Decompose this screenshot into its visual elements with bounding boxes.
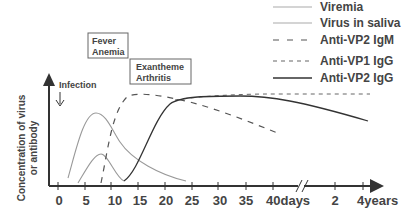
legend-label-vp2-igm: Anti-VP2 IgM xyxy=(320,33,394,47)
chart-canvas: Viremia Virus in saliva Anti-VP2 IgM Ant… xyxy=(0,0,417,223)
legend-label-vp2-igg: Anti-VP2 IgG xyxy=(320,71,393,85)
axes xyxy=(43,73,384,193)
y-axis-arrow-icon xyxy=(43,73,55,86)
svg-text:Infection: Infection xyxy=(59,80,97,90)
svg-text:30: 30 xyxy=(213,193,227,208)
legend-label-saliva: Virus in saliva xyxy=(320,16,401,30)
svg-text:40days: 40days xyxy=(266,193,310,208)
svg-text:15: 15 xyxy=(133,193,147,208)
svg-text:4years: 4years xyxy=(357,193,398,208)
svg-text:Exantheme: Exantheme xyxy=(136,62,184,72)
svg-text:0: 0 xyxy=(55,193,62,208)
infection-marker: Infection xyxy=(56,80,97,106)
svg-text:Anemia: Anemia xyxy=(92,47,126,57)
series-vp2-igm xyxy=(101,94,280,183)
annotation-exantheme-arthritis: Exantheme Arthritis xyxy=(130,59,191,84)
svg-text:Concentration of virus: Concentration of virus xyxy=(16,94,27,201)
svg-text:10: 10 xyxy=(108,193,122,208)
svg-text:Fever: Fever xyxy=(92,36,117,46)
svg-text:25: 25 xyxy=(185,193,199,208)
legend-label-vp1-igg: Anti-VP1 IgG xyxy=(320,54,393,68)
y-axis-label: Concentration of virus or antibody xyxy=(16,94,39,201)
series xyxy=(68,94,370,183)
annotation-fever-anemia: Fever Anemia xyxy=(88,33,128,58)
svg-text:35: 35 xyxy=(239,193,253,208)
legend-label-viremia: Viremia xyxy=(320,0,363,14)
svg-text:Arthritis: Arthritis xyxy=(136,73,171,83)
svg-text:20: 20 xyxy=(159,193,173,208)
legend: Viremia Virus in saliva Anti-VP2 IgM Ant… xyxy=(273,0,401,85)
svg-text:5: 5 xyxy=(82,193,89,208)
series-vp2-igg xyxy=(124,96,368,181)
series-saliva xyxy=(78,154,124,183)
svg-text:2: 2 xyxy=(331,193,338,208)
x-axis-arrow-icon xyxy=(370,179,384,193)
x-tick-labels: 0 5 10 15 20 25 30 35 40days 2 4years xyxy=(55,193,398,208)
svg-text:or antibody: or antibody xyxy=(28,120,39,175)
